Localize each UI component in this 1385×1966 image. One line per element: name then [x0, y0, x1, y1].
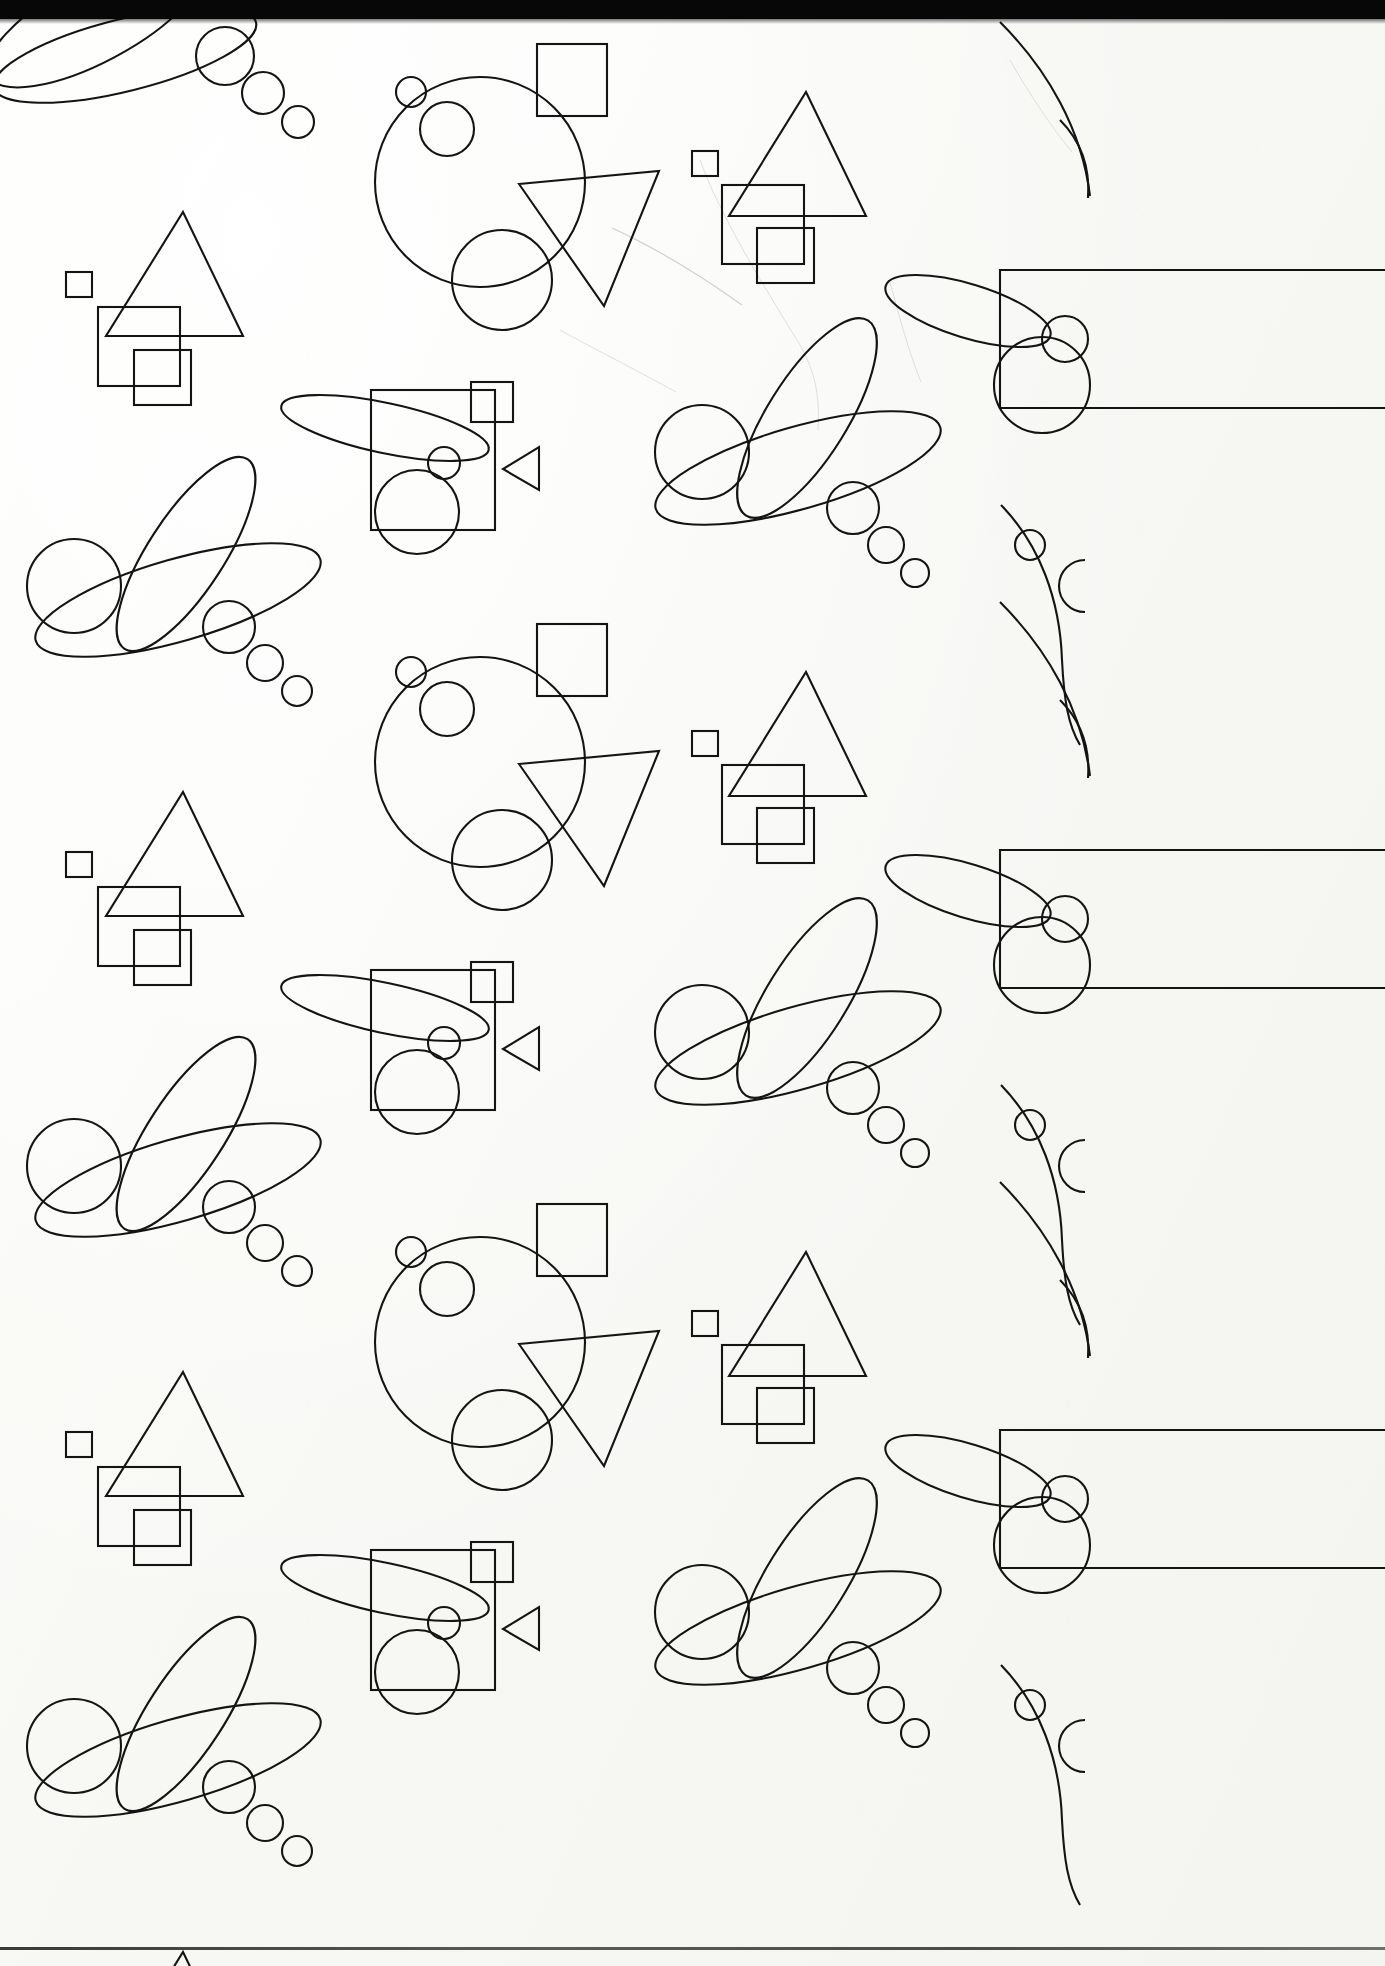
motif-edge-arcs-2	[1000, 1182, 1090, 1358]
motif-rect-circles-1	[878, 840, 1385, 1013]
motif-rect-circles-0	[878, 260, 1385, 433]
scanner-top-black-band	[0, 0, 1385, 19]
pattern-row-0	[0, 0, 1385, 745]
motif-square-circles-0	[276, 382, 539, 554]
motif-ellipse-chain-left-0	[24, 439, 331, 706]
motif-big-circle-group-2	[375, 1204, 659, 1490]
pattern-row-2	[24, 1182, 1385, 1905]
motif-triangle-squares-cluster-0	[66, 212, 243, 405]
motif-edge-circles-2	[1001, 1665, 1085, 1905]
pattern-artwork	[0, 0, 1385, 1966]
motif-triangle-square-stack-2	[692, 1252, 866, 1443]
scanned-page	[0, 0, 1385, 1966]
motif-ellipse-chain-left-2	[24, 1599, 331, 1866]
motif-triangle-squares-cluster-1	[66, 792, 243, 985]
motif-square-circles-2	[276, 1542, 539, 1714]
motif-square-circles-1	[276, 962, 539, 1134]
motif-big-circle-group-1	[375, 624, 659, 910]
motif-triangle-square-stack-0	[692, 92, 866, 283]
motif-triangle-squares-cluster-3	[66, 1952, 243, 1966]
motif-edge-arcs-1	[1000, 602, 1090, 778]
motif-ellipse-chain-right-2	[644, 1459, 951, 1747]
scanner-bottom-edge-line	[0, 1947, 1385, 1950]
motif-ellipse-chain-right-1	[644, 879, 951, 1167]
motif-edge-arcs-0	[1000, 22, 1090, 198]
motif-triangle-square-stack-1	[692, 672, 866, 863]
pattern-row-1	[24, 602, 1385, 1325]
motif-big-circle-group-0	[375, 44, 659, 330]
motif-triangle-squares-cluster-2	[66, 1372, 243, 1565]
pattern-row-3	[66, 1952, 1385, 1966]
motif-ellipse-chain-left-1	[24, 1019, 331, 1286]
motif-rect-circles-2	[878, 1420, 1385, 1593]
